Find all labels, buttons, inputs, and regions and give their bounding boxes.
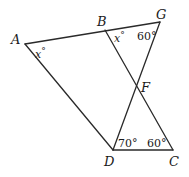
vertex-label-F: F	[140, 80, 151, 95]
vertex-label-G: G	[156, 7, 166, 22]
angle-label-A: x°	[35, 46, 46, 61]
vertex-label-B: B	[96, 14, 107, 29]
vertex-label-C: C	[169, 154, 179, 169]
vertex-label-A: A	[10, 32, 20, 47]
geometry-diagram: A B G F D C x° x° 60° 70° 60°	[0, 0, 189, 177]
vertex-label-D: D	[103, 154, 115, 169]
angle-A-unit: °	[41, 46, 46, 56]
angle-label-G: 60°	[137, 30, 157, 43]
angle-B-unit: °	[120, 30, 125, 40]
segment-BC	[105, 30, 173, 150]
angle-label-B: x°	[114, 30, 125, 45]
angle-label-C: 60°	[147, 137, 167, 150]
angle-label-D: 70°	[118, 137, 138, 150]
